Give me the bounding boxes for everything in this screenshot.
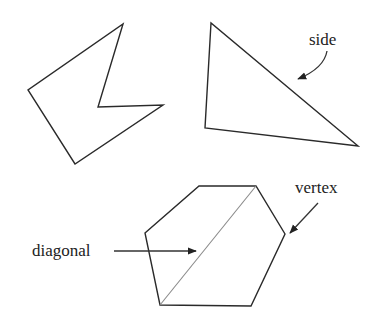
- side-label: side: [309, 30, 336, 49]
- concave-polygon: [28, 24, 163, 164]
- vertex-label: vertex: [295, 178, 338, 197]
- polygon-diagram: side vertex diagonal: [0, 0, 373, 317]
- hexagon-diagonal: [160, 186, 256, 305]
- diagonal-label: diagonal: [32, 241, 91, 260]
- side-arrow: [298, 51, 327, 79]
- vertex-arrow: [290, 203, 318, 233]
- hexagon: [145, 186, 285, 306]
